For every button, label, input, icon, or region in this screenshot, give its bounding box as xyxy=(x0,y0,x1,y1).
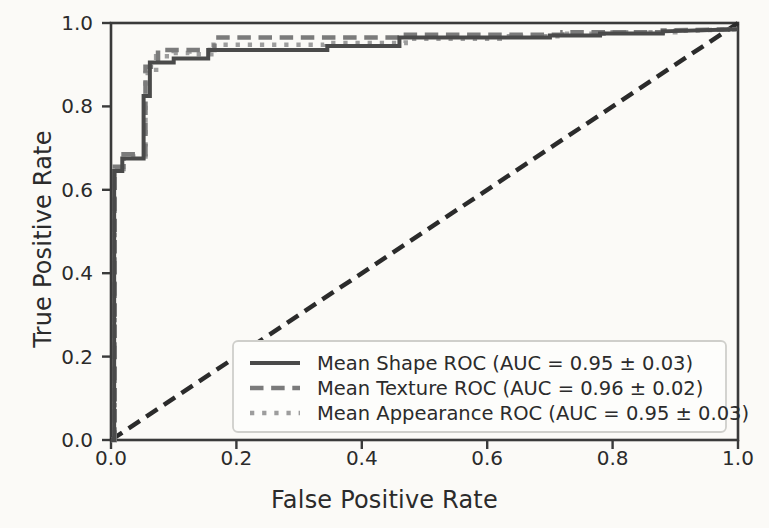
x-tick-label: 0.6 xyxy=(471,446,503,470)
legend-entry-label: Mean Appearance ROC (AUC = 0.95 ± 0.03) xyxy=(317,402,749,425)
y-tick-label: 0.0 xyxy=(33,428,93,452)
y-tick-label: 0.4 xyxy=(33,261,93,285)
x-tick-label: 0.8 xyxy=(597,446,629,470)
x-tick-label: 1.0 xyxy=(722,446,754,470)
x-tick-label: 0.2 xyxy=(220,446,252,470)
x-axis-label: False Positive Rate xyxy=(0,486,769,514)
y-tick-label: 0.6 xyxy=(33,178,93,202)
legend-box: Mean Shape ROC (AUC = 0.95 ± 0.03)Mean T… xyxy=(233,341,749,432)
y-tick-label: 0.8 xyxy=(33,94,93,118)
y-tick-label: 0.2 xyxy=(33,345,93,369)
legend-entry-label: Mean Texture ROC (AUC = 0.96 ± 0.02) xyxy=(317,377,703,400)
legend-entry-label: Mean Shape ROC (AUC = 0.95 ± 0.03) xyxy=(317,352,693,375)
x-tick-label: 0.4 xyxy=(346,446,378,470)
y-tick-label: 1.0 xyxy=(33,11,93,35)
roc-curve-figure: False Positive Rate True Positive Rate 0… xyxy=(0,0,769,528)
x-tick-label: 0.0 xyxy=(95,446,127,470)
